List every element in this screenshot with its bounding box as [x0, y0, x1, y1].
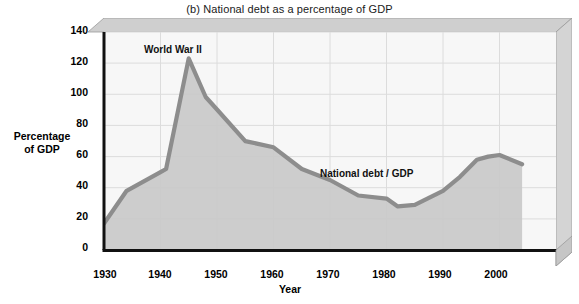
x-tick-1940: 1940 — [137, 268, 183, 280]
plot-svg — [88, 18, 572, 266]
y-tick-40: 40 — [54, 179, 88, 191]
y-tick-100: 100 — [54, 86, 88, 98]
chart-title: (b) National debt as a percentage of GDP — [0, 3, 579, 15]
y-tick-0: 0 — [54, 241, 88, 253]
annotation-series-label: National debt / GDP — [320, 168, 413, 179]
y-tick-80: 80 — [54, 117, 88, 129]
frame-right-face — [556, 18, 572, 266]
x-tick-1970: 1970 — [305, 268, 351, 280]
x-tick-1980: 1980 — [361, 268, 407, 280]
y-tick-140: 140 — [54, 24, 88, 36]
y-tick-20: 20 — [54, 210, 88, 222]
x-tick-1950: 1950 — [193, 268, 239, 280]
frame-top-face — [88, 18, 572, 32]
x-tick-1990: 1990 — [417, 268, 463, 280]
x-tick-2000: 2000 — [473, 268, 519, 280]
y-axis-label-line1: Percentage — [14, 130, 71, 142]
x-tick-1930: 1930 — [82, 268, 128, 280]
x-tick-1960: 1960 — [249, 268, 295, 280]
x-axis-label: Year — [230, 283, 350, 295]
chart-figure: (b) National debt as a percentage of GDP… — [0, 0, 579, 304]
plot-frame — [88, 18, 572, 266]
y-tick-120: 120 — [54, 55, 88, 67]
annotation-world-war-ii: World War II — [144, 44, 202, 55]
y-tick-60: 60 — [54, 148, 88, 160]
